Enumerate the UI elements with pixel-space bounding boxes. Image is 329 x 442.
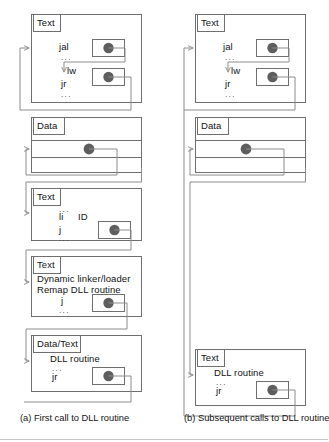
panel-a-label-dll-routine: DLL routine xyxy=(50,354,100,364)
panel-b-label-dll-routine: DLL routine xyxy=(214,368,264,378)
panel-a-tag-data-text: Data/Text xyxy=(37,339,78,349)
panel-a-label-dynamic-linker: Dynamic linker/loader xyxy=(37,274,130,284)
panel-a-label-jr: jr xyxy=(61,79,66,89)
panel-a-label-remap-dll: Remap DLL routine xyxy=(37,285,121,295)
panel-a-label-id: ID xyxy=(78,212,88,222)
panel-b-connector-data-to-text2 xyxy=(190,168,306,375)
panel-a-label-j-2: j xyxy=(61,296,63,306)
panel-a-label-dots-5: ... xyxy=(59,306,70,316)
bottom-divider xyxy=(0,439,328,440)
panel-a-label-li: li xyxy=(59,212,63,222)
panel-a-label-dots-1: ... xyxy=(61,53,72,63)
panel-b-label-jr-2: jr xyxy=(216,386,221,396)
panel-b-tag-text-2: Text xyxy=(201,353,219,363)
panel-b-label-jal: jal xyxy=(223,42,233,52)
panel-b-tag-data: Data xyxy=(201,121,221,131)
panel-b-label-dots-1: ... xyxy=(225,53,236,63)
panel-b-tag-text-1: Text xyxy=(201,18,219,28)
panel-a-label-jr-2: jr xyxy=(52,372,57,382)
panel-a-tag-text-2: Text xyxy=(37,192,55,202)
panel-a-label-dots-4: ... xyxy=(59,234,70,244)
panel-a-caption: (a) First call to DLL routine xyxy=(20,413,129,423)
panel-a-tag-text-3: Text xyxy=(37,260,55,270)
panel-a-label-dots-2: ... xyxy=(61,90,72,100)
panel-b-label-lw: lw xyxy=(231,66,240,76)
panel-a-tag-data: Data xyxy=(37,121,57,131)
panel-a-tag-text-1: Text xyxy=(37,18,55,28)
panel-b-caption: (b) Subsequent calls to DLL routine xyxy=(184,413,329,423)
panel-a-label-lw: lw xyxy=(67,66,76,76)
panel-b-label-dots-2: ... xyxy=(225,90,236,100)
panel-a-label-jal: jal xyxy=(59,42,69,52)
panel-b-label-jr: jr xyxy=(225,79,230,89)
